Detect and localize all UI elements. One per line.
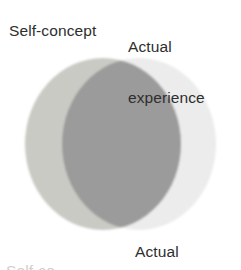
congruence-venn-figure: Self-concept Actual experience Actual Se… xyxy=(0,0,241,270)
venn-svg xyxy=(0,0,241,270)
label-bottom-actual: Actual xyxy=(135,243,179,260)
label-actual-experience-line2: experience xyxy=(128,89,205,106)
venn-diagram xyxy=(0,0,241,270)
label-actual-experience: Actual experience xyxy=(128,4,205,140)
label-actual-experience-line1: Actual xyxy=(128,38,205,55)
label-bottom-cut-off-text: Self-co xyxy=(6,262,55,270)
label-self-concept: Self-concept xyxy=(9,22,96,39)
